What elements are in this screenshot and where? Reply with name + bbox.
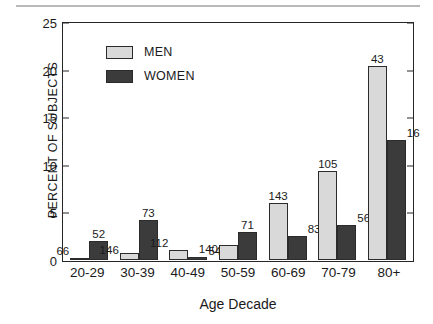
bar-men-50-59[interactable]: 140 [219, 245, 238, 259]
bar-value-label-women-30-39: 73 [142, 207, 155, 219]
bar-slot-women-20-29: 52 [89, 23, 108, 260]
y-tick-label-20: 20 [43, 63, 57, 78]
bar-men-80+[interactable]: 43 [368, 66, 387, 260]
x-tick-label-20-29: 20-29 [62, 265, 112, 280]
bar-group-40-49: 11254 [164, 23, 214, 260]
bar-value-label-men-40-49: 112 [150, 237, 168, 249]
x-tick-label-80+: 80+ [364, 265, 414, 280]
bar-women-80+[interactable]: 16 [387, 140, 406, 259]
x-tick-label-50-59: 50-59 [213, 265, 263, 280]
y-tick-label-10: 10 [43, 158, 57, 173]
bar-men-30-39[interactable]: 146 [120, 253, 139, 260]
bar-men-40-49[interactable]: 112 [169, 250, 188, 259]
bar-slot-women-30-39: 73 [139, 23, 158, 260]
bar-men-60-69[interactable]: 143 [269, 203, 288, 260]
bar-value-label-women-20-29: 52 [92, 228, 105, 240]
bar-slot-men-30-39: 146 [120, 23, 139, 260]
x-axis-title: Age Decade [62, 296, 414, 312]
bar-men-20-29[interactable]: 66 [70, 258, 89, 260]
x-tick-label-60-69: 60-69 [263, 265, 313, 280]
bar-value-label-men-20-29: 66 [56, 245, 69, 257]
plot-area: 0510152025 MEN WOMEN 6652146731125414071… [62, 22, 414, 262]
bar-slot-men-80+: 43 [368, 23, 387, 260]
bar-value-label-men-50-59: 140 [199, 243, 218, 255]
bar-women-50-59[interactable]: 71 [238, 232, 257, 259]
bar-value-label-men-60-69: 143 [269, 190, 288, 202]
bar-value-label-women-50-59: 71 [241, 219, 254, 231]
y-tick-label-5: 5 [50, 206, 57, 221]
bar-group-70-79: 10556 [312, 23, 362, 260]
x-tick-label-30-39: 30-39 [112, 265, 162, 280]
bar-men-70-79[interactable]: 105 [318, 171, 337, 260]
bar-women-40-49[interactable]: 54 [188, 257, 207, 260]
y-tick-label-25: 25 [43, 16, 57, 31]
y-tick-label-15: 15 [43, 111, 57, 126]
bar-women-70-79[interactable]: 56 [337, 225, 356, 260]
bar-slot-men-50-59: 140 [219, 23, 238, 260]
bar-group-80+: 4316 [362, 23, 412, 260]
bar-slot-women-60-69: 83 [288, 23, 307, 260]
bar-group-20-29: 6652 [64, 23, 114, 260]
bar-women-60-69[interactable]: 83 [288, 236, 307, 260]
bar-group-50-59: 14071 [213, 23, 263, 260]
bar-slot-men-60-69: 143 [269, 23, 288, 260]
bar-slot-men-40-49: 112 [169, 23, 188, 260]
x-tick-label-40-49: 40-49 [163, 265, 213, 280]
bar-value-label-men-70-79: 105 [318, 158, 337, 170]
bar-slot-women-50-59: 71 [238, 23, 257, 260]
bar-group-30-39: 14673 [114, 23, 164, 260]
bar-value-label-men-80+: 43 [371, 53, 384, 65]
bar-groups: 665214673112541407114383105564316 [64, 23, 411, 260]
bar-slot-men-70-79: 105 [318, 23, 337, 260]
bar-slot-men-20-29: 66 [70, 23, 89, 260]
x-axis-tick-labels: 20-2930-3940-4950-5960-6970-7980+ [62, 265, 414, 280]
bar-value-label-women-80+: 16 [407, 127, 420, 139]
bar-slot-women-70-79: 56 [337, 23, 356, 260]
x-tick-label-70-79: 70-79 [313, 265, 363, 280]
bar-slot-women-40-49: 54 [188, 23, 207, 260]
bar-value-label-men-30-39: 146 [100, 244, 119, 256]
bar-group-60-69: 14383 [263, 23, 313, 260]
bar-chart-figure: PERCENT OF SUBJECTS 0510152025 MEN WOMEN… [0, 0, 433, 324]
bar-slot-women-80+: 16 [387, 23, 406, 260]
